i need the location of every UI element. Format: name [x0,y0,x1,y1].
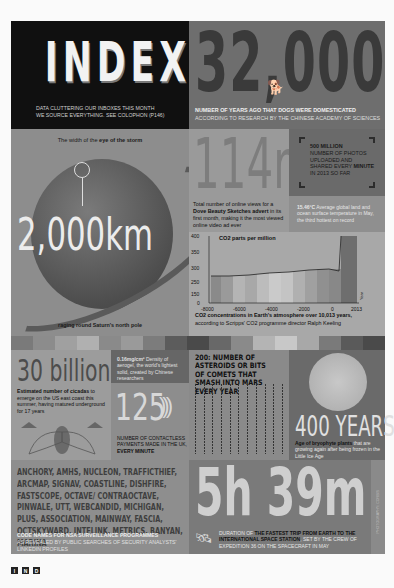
stripe-cell [341,336,363,350]
views-caption: Total number of online views for a Dove … [193,201,285,229]
iss-caption: DURATION OF THE FASTEST TRIP FROM EARTH … [219,530,369,549]
storm-eye-icon [74,162,90,178]
moss-sample-graphic [309,353,367,411]
temperature-caption: 15.46°C Average global land and ocean su… [297,204,381,223]
dogs-source: ACCORDING TO RESEARCH BY THE CHINESE ACA… [195,115,380,121]
cicada-number: 30 billion [17,353,110,388]
asteroid-tally-graphic [195,384,283,454]
stripe-cell [209,336,231,350]
saturn-intro: The width of the eye of the storm [11,137,189,143]
svg-text:300: 300 [191,265,200,271]
aerogel-panel: 0.16mg/cm³ Density of aerogel, the world… [111,350,189,383]
index-subtitle-line2: WE SOURCE EVERYTHING. SEE COLOPHON (P146… [36,112,186,119]
svg-text:350: 350 [191,249,200,255]
saturn-panel: The width of the eye of the storm 2,000k… [11,129,189,336]
stripe-cell [121,336,143,350]
svg-text:150: 150 [191,291,200,297]
photos-caption: 500 MILLIONNUMBER OF PHOTOS UPLOADED AND… [310,143,376,177]
co2-caption-source: according to Scripps' CO2 programme dire… [195,320,341,326]
dog-icon: 🐕 [267,79,284,95]
index-title: INDEX [45,29,155,94]
contactless-caption: NUMBER OF CONTACTLESS PAYMENTS MADE IN T… [117,435,189,454]
cicada-icon [17,418,107,458]
co2-chart-panel: 4003503002501500 -8000-6000-4000-2000020… [189,232,385,336]
stripe-cell [55,336,77,350]
asteroids-panel: 200: NUMBER OF ASTEROIDS OR BITS OF COME… [189,350,289,460]
storm-eye-pointer [82,178,83,206]
stripe-cell [363,336,385,350]
temperature-panel: 15.46°C Average global land and ocean su… [289,196,385,232]
photo-credit: PHOTOGRAPHY: CORBIS [376,490,380,533]
page-nav-item[interactable]: I [11,567,18,574]
aerogel-caption: 0.16mg/cm³ Density of aerogel, the world… [117,356,187,382]
stripe-cell [231,336,253,350]
index-subtitle: DATA CLUTTERING OUR INBOXES THIS MONTH W… [36,105,186,119]
saturn-number: 2,000km [17,209,153,260]
stripe-cell [297,336,319,350]
views-panel: 114m Total number of online views for a … [189,129,289,232]
stripe-cell [143,336,165,350]
svg-text:CO2 parts per million: CO2 parts per million [219,235,276,241]
page-nav: I N D [11,567,40,574]
stripe-cell [11,336,33,350]
svg-text:250: 250 [191,279,200,285]
co2-caption-title: CO2 concentrations in Earth's atmosphere… [195,312,352,318]
svg-text:0: 0 [197,300,200,306]
cicada-panel: 30 billion Estimated number of cicadas t… [11,350,111,460]
index-subtitle-line1: DATA CLUTTERING OUR INBOXES THIS MONTH [36,105,186,112]
cicada-caption: Estimated number of cicadas to emerge on… [17,388,107,414]
stripe-cell [33,336,55,350]
frame-corner-icon [299,137,305,143]
frame-corner-icon [369,182,375,188]
index-header: INDEX DATA CLUTTERING OUR INBOXES THIS M… [11,21,189,129]
saturn-caption: raging round Saturn's north pole [11,322,189,328]
stripe-cell [165,336,187,350]
nsa-panel: ANCHORY, AMHS, NUCLEON, TRAFFICTHIEF, AR… [11,460,189,554]
iss-number: 5h 39m [195,454,366,531]
stripe-cell [253,336,275,350]
contactless-wave-icon: ))) [159,393,169,419]
co2-chart: 4003503002501500 -8000-6000-4000-2000020… [189,232,385,312]
svg-text:400: 400 [191,233,200,239]
infographic-page: INDEX DATA CLUTTERING OUR INBOXES THIS M… [11,21,385,554]
dogs-title: NUMBER OF YEARS AGO THAT DOGS WERE DOMES… [195,107,356,113]
stripe-cell [275,336,297,350]
nsa-subtitle: AS REVEALED BY PUBLIC SEARCHES OF SECURI… [17,539,187,552]
spacecraft-icon: 🛰 [195,530,213,546]
photos-panel: 500 MILLIONNUMBER OF PHOTOS UPLOADED AND… [289,129,385,196]
stripe-cell [319,336,341,350]
moss-panel: 400 YEARS Age of bryophyte plants that a… [289,350,385,460]
stripe-cell [77,336,99,350]
temperature-stripe [11,336,385,350]
frame-corner-icon [299,182,305,188]
dogs-number: 32,000 [195,15,385,110]
svg-text:2013: 2013 [351,306,362,312]
dogs-panel: 32,000 🐕 NUMBER OF YEARS AGO THAT DOGS W… [189,21,385,129]
svg-text:Year: Year [359,291,364,300]
nsa-title: CODE NAMES FOR NSA SURVEILLANCE PROGRAMM… [17,532,158,538]
stripe-cell [187,336,209,350]
page-nav-item[interactable]: N [22,567,29,574]
iss-panel: 5h 39m 🛰 DURATION OF THE FASTEST TRIP FR… [189,460,371,554]
contactless-panel: 125 ))) NUMBER OF CONTACTLESS PAYMENTS M… [111,383,189,460]
page-nav-item[interactable]: D [33,567,40,574]
stripe-cell [99,336,121,350]
moss-number: 400 YEARS [295,410,394,443]
